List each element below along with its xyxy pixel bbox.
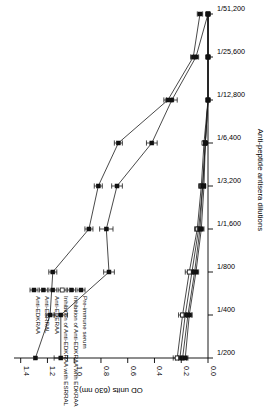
y-axis-ticks: 0.00.20.40.60.81.01.21.4OD units (630 nm…	[21, 358, 218, 395]
x-axis-title: Anti-peptide antisera dilutions	[256, 129, 265, 231]
data-point-marker[interactable]	[150, 141, 154, 145]
x-tick-label: 1/800	[217, 262, 235, 271]
legend-marker	[70, 288, 74, 292]
legend-label: Anti-EDKRAA	[35, 296, 42, 335]
data-point-marker[interactable]	[33, 356, 37, 360]
legend-marker	[51, 288, 55, 292]
legend-label: Anti-EDERAA	[54, 296, 61, 335]
y-tick-label: 0.8	[102, 366, 111, 376]
data-point-marker[interactable]	[183, 356, 187, 360]
axes	[14, 14, 208, 358]
data-point-marker[interactable]	[206, 98, 210, 102]
x-tick-label: 1/200	[217, 348, 235, 357]
data-point-marker[interactable]	[104, 227, 108, 231]
data-point-marker[interactable]	[202, 184, 206, 188]
data-point-marker[interactable]	[59, 356, 63, 360]
data-point-marker[interactable]	[187, 313, 191, 317]
y-tick-label: 1.2	[48, 366, 57, 376]
data-point-marker[interactable]	[206, 12, 210, 16]
legend-marker	[41, 288, 45, 292]
figure-canvas: 1/2001/4001/8001/1,6001/3,2001/6,4001/12…	[0, 0, 266, 410]
y-tick-label: 0.6	[129, 366, 138, 376]
x-tick-label: 1/25,600	[217, 47, 245, 56]
data-point-marker[interactable]	[51, 270, 55, 274]
data-point-marker[interactable]	[199, 227, 203, 231]
data-point-marker[interactable]	[203, 141, 207, 145]
data-point-marker[interactable]	[206, 55, 210, 59]
legend-label: Inhibition of Anti-EDKRAA with EDKRAA	[73, 296, 80, 408]
legend-marker	[32, 288, 36, 292]
data-point-marker[interactable]	[96, 184, 100, 188]
x-tick-label: 1/3,200	[217, 176, 241, 185]
x-tick-label: 1/400	[217, 305, 235, 314]
x-tick-label: 1/12,800	[217, 90, 245, 99]
x-tick-label: 1/51,200	[217, 4, 245, 13]
data-point-marker[interactable]	[198, 12, 202, 16]
data-point-marker[interactable]	[87, 227, 91, 231]
rotated-figure-wrapper: 1/2001/4001/8001/1,6001/3,2001/6,4001/12…	[0, 0, 266, 410]
data-point-marker[interactable]	[107, 270, 111, 274]
x-axis-ticks: 1/2001/4001/8001/1,6001/3,2001/6,4001/12…	[208, 4, 265, 358]
legend-open-marker	[60, 288, 64, 292]
x-tick-label: 1/1,600	[217, 219, 241, 228]
elisa-titration-chart: 1/2001/4001/8001/1,6001/3,2001/6,4001/12…	[0, 0, 266, 410]
legend-label: Pre-immune serum	[82, 296, 89, 349]
y-axis-title: OD units (630 nm)	[79, 386, 143, 395]
legend-label: Inhibition of Anti-EDKRAA with ESRRAL	[63, 296, 70, 407]
y-tick-label: 1.4	[22, 366, 31, 376]
y-tick-label: 0.4	[155, 366, 164, 376]
data-point-marker[interactable]	[170, 98, 174, 102]
y-tick-label: 0.0	[209, 366, 218, 376]
data-point-marker[interactable]	[115, 184, 119, 188]
data-point-marker[interactable]	[194, 270, 198, 274]
data-point-marker[interactable]	[194, 55, 198, 59]
x-tick-label: 1/6,400	[217, 133, 241, 142]
y-tick-label: 0.2	[182, 366, 191, 376]
legend-item[interactable]: Anti-EDKRAA	[30, 288, 42, 335]
legend-label: Anti-ESRRAL	[44, 296, 51, 334]
data-point-marker[interactable]	[116, 141, 120, 145]
legend-marker	[79, 288, 83, 292]
data-point-open-marker[interactable]	[187, 270, 191, 274]
